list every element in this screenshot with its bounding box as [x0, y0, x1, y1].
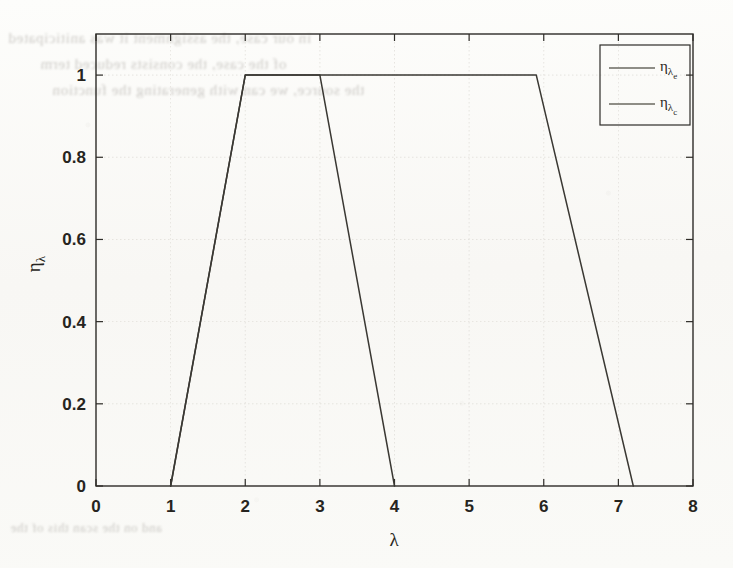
plot-figure: 012345678 00.20.40.60.81 λ ηλ ηλe ηλc	[0, 0, 733, 568]
x-tick-label: 8	[688, 497, 697, 516]
y-tick-label: 1	[77, 66, 86, 85]
y-axis-title: ηλ	[23, 255, 48, 272]
y-tick-label: 0.6	[62, 230, 86, 249]
x-tick-label: 3	[315, 497, 324, 516]
y-axis-title-group: ηλ	[23, 255, 48, 272]
x-tick-label: 1	[166, 497, 175, 516]
gridlines-group	[96, 34, 693, 486]
y-axis-tick-labels: 00.20.40.60.81	[62, 66, 86, 496]
y-tick-label: 0.8	[62, 148, 86, 167]
x-tick-label: 6	[539, 497, 548, 516]
data-series-group	[171, 75, 634, 486]
series-line-1	[171, 75, 634, 486]
x-tick-label: 7	[614, 497, 623, 516]
x-tick-label: 0	[91, 497, 100, 516]
y-tick-label: 0.2	[62, 395, 86, 414]
y-tick-label: 0	[77, 477, 86, 496]
chart-svg: 012345678 00.20.40.60.81 λ ηλ ηλe ηλc	[0, 0, 733, 568]
legend-label-series-2: ηλc	[660, 94, 677, 117]
x-axis-title: λ	[389, 529, 399, 550]
x-tick-label: 5	[464, 497, 473, 516]
y-tick-label: 0.4	[62, 313, 86, 332]
series-line-2	[171, 75, 395, 486]
x-axis-tick-labels: 012345678	[91, 497, 697, 516]
x-tick-label: 4	[390, 497, 400, 516]
legend: ηλe ηλc	[600, 45, 690, 125]
legend-label-series-1: ηλe	[660, 58, 677, 81]
x-tick-label: 2	[241, 497, 250, 516]
